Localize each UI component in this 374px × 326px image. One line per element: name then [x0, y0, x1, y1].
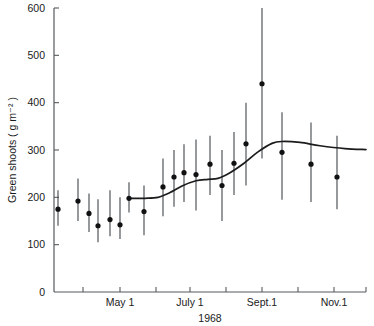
error-bars	[58, 8, 337, 242]
data-point	[207, 162, 212, 167]
data-point	[171, 174, 176, 179]
x-axis-title: 1968	[198, 312, 222, 324]
data-point	[126, 196, 131, 201]
y-tick-label: 200	[27, 191, 45, 203]
data-point	[279, 150, 284, 155]
data-point	[141, 209, 146, 214]
data-point	[117, 222, 122, 227]
y-axis: 0100200300400500600	[27, 2, 59, 298]
data-point	[334, 174, 339, 179]
data-point	[181, 170, 186, 175]
data-point	[231, 161, 236, 166]
data-point	[308, 162, 313, 167]
x-tick-label: May 1	[106, 296, 135, 308]
data-point	[259, 81, 264, 86]
y-tick-label: 500	[27, 49, 45, 61]
data-point	[86, 211, 91, 216]
data-point	[107, 217, 112, 222]
y-tick-label: 600	[27, 2, 45, 14]
data-point	[193, 172, 198, 177]
y-axis-title: Green shoots ( g m⁻² )	[6, 97, 18, 203]
data-point	[243, 141, 248, 146]
x-tick-label: July 1	[176, 296, 204, 308]
x-axis: May 1July 1Sept.1Nov.1	[54, 287, 366, 308]
y-tick-label: 100	[27, 238, 45, 250]
data-point	[55, 207, 60, 212]
y-tick-label: 400	[27, 96, 45, 108]
data-point	[75, 199, 80, 204]
data-point	[160, 184, 165, 189]
data-point	[219, 183, 224, 188]
x-tick-label: Nov.1	[321, 296, 348, 308]
x-tick-label: Sept.1	[247, 296, 278, 308]
chart-container: 0100200300400500600 May 1July 1Sept.1Nov…	[0, 0, 374, 326]
green-shoots-scatter-chart: 0100200300400500600 May 1July 1Sept.1Nov…	[0, 0, 374, 326]
y-tick-label: 0	[39, 286, 45, 298]
fitted-curve	[129, 141, 366, 198]
y-tick-label: 300	[27, 144, 45, 156]
data-point	[95, 223, 100, 228]
